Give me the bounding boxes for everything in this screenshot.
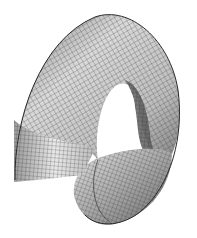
mesh-surface-figure [0,0,197,238]
mesh-surface-render [0,0,197,238]
surface-hole [104,87,135,151]
